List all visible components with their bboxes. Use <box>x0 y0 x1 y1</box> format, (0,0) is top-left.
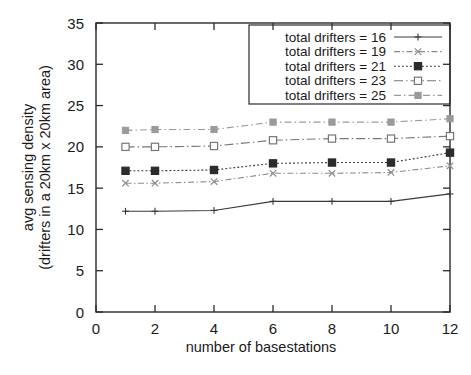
y-tick-label: 15 <box>67 180 84 197</box>
marker-filled-square <box>388 119 394 125</box>
legend-label: total drifters = 16 <box>285 30 386 45</box>
marker-filled-square <box>414 63 421 70</box>
x-axis-title: number of basestations <box>186 339 337 355</box>
y-tick-label: 10 <box>67 221 84 238</box>
x-tick-label: 6 <box>269 320 277 337</box>
marker-filled-square <box>151 167 158 174</box>
marker-filled-square <box>269 160 276 167</box>
x-tick-label: 12 <box>442 320 459 337</box>
y-tick-label: 30 <box>67 56 84 73</box>
marker-filled-square <box>415 92 421 98</box>
marker-open-square <box>414 77 421 84</box>
marker-open-square <box>387 135 394 142</box>
x-tick-label: 4 <box>210 320 218 337</box>
y-tick-label: 5 <box>76 262 84 279</box>
y-tick-label: 20 <box>67 138 84 155</box>
x-tick-label: 10 <box>383 320 400 337</box>
marker-filled-square <box>152 126 158 132</box>
marker-filled-square <box>270 119 276 125</box>
marker-filled-square <box>329 119 335 125</box>
marker-open-square <box>210 142 217 149</box>
marker-filled-square <box>122 167 129 174</box>
y-tick-label: 0 <box>76 304 84 321</box>
line-chart: 024681012 05101520253035 total drifters … <box>0 0 471 375</box>
legend-label: total drifters = 25 <box>285 88 386 103</box>
marker-open-square <box>328 135 335 142</box>
marker-open-square <box>269 137 276 144</box>
legend-label: total drifters = 21 <box>285 59 386 74</box>
y-tick-label: 35 <box>67 15 84 32</box>
x-tick-label: 0 <box>92 320 100 337</box>
legend-label: total drifters = 23 <box>285 73 386 88</box>
x-tick-label: 2 <box>151 320 159 337</box>
marker-open-square <box>446 133 453 140</box>
legend-label: total drifters = 19 <box>285 44 386 59</box>
y-axis-title-line2: (drifters in a 20km x 20km area) <box>37 65 53 270</box>
marker-filled-square <box>446 149 453 156</box>
marker-filled-square <box>210 166 217 173</box>
marker-filled-square <box>447 116 453 122</box>
marker-filled-square <box>211 126 217 132</box>
marker-filled-square <box>387 159 394 166</box>
y-tick-label: 25 <box>67 97 84 114</box>
marker-open-square <box>151 143 158 150</box>
chart-container: 024681012 05101520253035 total drifters … <box>0 0 471 375</box>
x-tick-label: 8 <box>328 320 336 337</box>
marker-filled-square <box>328 159 335 166</box>
marker-filled-square <box>122 127 128 133</box>
y-axis-title-line1: avg sensing density <box>20 103 36 231</box>
marker-open-square <box>122 143 129 150</box>
